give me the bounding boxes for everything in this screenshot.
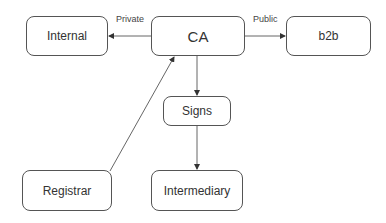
edge-label-private: Private: [116, 14, 144, 24]
node-ca[interactable]: CA: [151, 16, 245, 56]
edge-label-public: Public: [253, 14, 278, 24]
node-intermediary-label: Intermediary: [164, 184, 231, 198]
node-registrar-label: Registrar: [43, 184, 92, 198]
node-internal-label: Internal: [47, 29, 87, 43]
node-signs[interactable]: Signs: [163, 96, 231, 126]
node-signs-label: Signs: [182, 104, 212, 118]
node-ca-label: CA: [188, 28, 209, 45]
node-b2b[interactable]: b2b: [286, 16, 371, 56]
node-internal[interactable]: Internal: [26, 16, 108, 56]
node-registrar[interactable]: Registrar: [22, 170, 112, 211]
node-b2b-label: b2b: [318, 29, 338, 43]
node-intermediary[interactable]: Intermediary: [151, 170, 243, 211]
